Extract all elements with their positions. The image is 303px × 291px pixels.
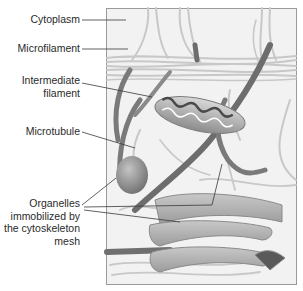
label-organelles-line1: Organelles [4, 197, 80, 210]
label-organelles-line3: the cytoskeleton [4, 222, 80, 235]
label-organelles: Organelles immobilized by the cytoskelet… [4, 197, 80, 247]
label-intermediate-filament: Intermediate filament [22, 74, 80, 99]
label-organelles-line4: mesh [4, 235, 80, 248]
label-cytoplasm: Cytoplasm [30, 13, 80, 26]
label-microtubule: Microtubule [26, 125, 80, 138]
label-organelles-line2: immobilized by [4, 210, 80, 223]
label-intermediate-line1: Intermediate [22, 74, 80, 87]
label-microfilament: Microfilament [18, 42, 80, 55]
vesicle-organelle [116, 156, 148, 194]
label-intermediate-line2: filament [22, 87, 80, 100]
